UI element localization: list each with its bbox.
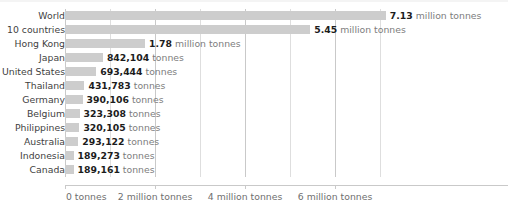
value-unit: tonnes xyxy=(123,150,155,161)
value-unit: million tonnes xyxy=(416,10,482,21)
value-label: 7.13 million tonnes xyxy=(390,9,482,23)
bar-row: Belgium323,308 tonnes xyxy=(0,107,508,121)
value-label: 390,106 tonnes xyxy=(87,93,164,107)
bar xyxy=(65,39,145,48)
value-number: 293,122 xyxy=(82,136,124,147)
axis-tick xyxy=(65,185,66,189)
bar xyxy=(65,109,80,118)
value-number: 7.13 xyxy=(390,10,413,21)
x-axis: 0 tonnes2 million tonnes4 million tonnes… xyxy=(0,185,508,218)
bar-track: 189,273 tonnes xyxy=(65,149,508,163)
value-label: 1.78 million tonnes xyxy=(149,37,241,51)
value-number: 431,783 xyxy=(88,80,130,91)
bar-row: Thailand431,783 tonnes xyxy=(0,79,508,93)
value-label: 431,783 tonnes xyxy=(88,79,165,93)
value-label: 5.45 million tonnes xyxy=(314,23,406,37)
value-number: 189,161 xyxy=(78,164,120,175)
bar-track: 189,161 tonnes xyxy=(65,163,508,177)
bar xyxy=(65,67,96,76)
category-label: United States xyxy=(2,65,65,79)
bar xyxy=(65,123,79,132)
bar xyxy=(65,11,386,20)
category-label: Canada xyxy=(30,163,65,177)
bar-row: 10 countries5.45 million tonnes xyxy=(0,23,508,37)
value-label: 320,105 tonnes xyxy=(83,121,160,135)
value-label: 293,122 tonnes xyxy=(82,135,159,149)
bar-track: 320,105 tonnes xyxy=(65,121,508,135)
axis-tick xyxy=(335,185,336,189)
bar-chart: World7.13 million tonnes10 countries5.45… xyxy=(0,0,508,218)
category-label: World xyxy=(38,9,65,23)
value-label: 842,104 tonnes xyxy=(107,51,184,65)
plot-area: World7.13 million tonnes10 countries5.45… xyxy=(0,9,508,185)
bar-row: United States693,444 tonnes xyxy=(0,65,508,79)
bar xyxy=(65,53,103,62)
value-number: 1.78 xyxy=(149,38,172,49)
category-label: Hong Kong xyxy=(14,37,65,51)
bar-track: 390,106 tonnes xyxy=(65,93,508,107)
value-number: 390,106 xyxy=(87,94,129,105)
bar-track: 842,104 tonnes xyxy=(65,51,508,65)
bar xyxy=(65,151,74,160)
bar-row: World7.13 million tonnes xyxy=(0,9,508,23)
category-label: Indonesia xyxy=(20,149,65,163)
value-unit: tonnes xyxy=(129,122,161,133)
bar xyxy=(65,25,310,34)
value-unit: tonnes xyxy=(152,52,184,63)
value-unit: tonnes xyxy=(128,136,160,147)
value-number: 320,105 xyxy=(83,122,125,133)
bar-track: 293,122 tonnes xyxy=(65,135,508,149)
axis-line xyxy=(65,185,508,186)
category-label: Thailand xyxy=(25,79,65,93)
bar xyxy=(65,95,83,104)
category-label: Australia xyxy=(24,135,65,149)
bar-row: Japan842,104 tonnes xyxy=(0,51,508,65)
bar xyxy=(65,81,84,90)
bar-track: 5.45 million tonnes xyxy=(65,23,508,37)
value-label: 323,308 tonnes xyxy=(84,107,161,121)
bar-track: 7.13 million tonnes xyxy=(65,9,508,23)
axis-tick-label: 6 million tonnes xyxy=(298,191,372,202)
value-unit: tonnes xyxy=(146,66,178,77)
bar-track: 1.78 million tonnes xyxy=(65,37,508,51)
value-number: 189,273 xyxy=(78,150,120,161)
value-label: 693,444 tonnes xyxy=(100,65,177,79)
value-unit: tonnes xyxy=(132,94,164,105)
top-divider xyxy=(0,0,508,2)
axis-tick xyxy=(155,185,156,189)
category-label: Germany xyxy=(22,93,65,107)
value-unit: tonnes xyxy=(134,80,166,91)
category-label: Belgium xyxy=(27,107,65,121)
value-unit: tonnes xyxy=(123,164,155,175)
value-unit: million tonnes xyxy=(175,38,241,49)
category-label: Japan xyxy=(39,51,65,65)
value-number: 5.45 xyxy=(314,24,337,35)
bar xyxy=(65,137,78,146)
bar-track: 431,783 tonnes xyxy=(65,79,508,93)
bar-row: Philippines320,105 tonnes xyxy=(0,121,508,135)
bar-row: Indonesia189,273 tonnes xyxy=(0,149,508,163)
bar xyxy=(65,165,74,174)
bar-row: Australia293,122 tonnes xyxy=(0,135,508,149)
bar-row: Germany390,106 tonnes xyxy=(0,93,508,107)
axis-tick-label: 4 million tonnes xyxy=(208,191,282,202)
bar-track: 323,308 tonnes xyxy=(65,107,508,121)
value-number: 842,104 xyxy=(107,52,149,63)
bar-rows: World7.13 million tonnes10 countries5.45… xyxy=(0,9,508,177)
value-unit: million tonnes xyxy=(340,24,406,35)
value-unit: tonnes xyxy=(129,108,161,119)
axis-tick xyxy=(245,185,246,189)
value-label: 189,273 tonnes xyxy=(78,149,155,163)
value-number: 693,444 xyxy=(100,66,142,77)
bar-row: Hong Kong1.78 million tonnes xyxy=(0,37,508,51)
bar-track: 693,444 tonnes xyxy=(65,65,508,79)
axis-tick-label: 2 million tonnes xyxy=(118,191,192,202)
category-label: 10 countries xyxy=(7,23,65,37)
value-number: 323,308 xyxy=(84,108,126,119)
category-label: Philippines xyxy=(15,121,65,135)
value-label: 189,161 tonnes xyxy=(78,163,155,177)
axis-tick-label: 0 tonnes xyxy=(66,191,107,202)
bar-row: Canada189,161 tonnes xyxy=(0,163,508,177)
